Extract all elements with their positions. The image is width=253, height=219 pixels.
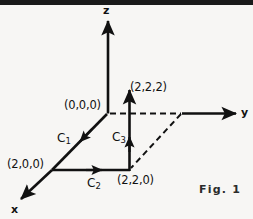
z-axis-label: z: [103, 5, 109, 16]
y-axis-label: y: [241, 107, 248, 118]
x-axis-label: x: [11, 204, 18, 215]
curve-c1-direction-arrow: [80, 129, 92, 142]
curve-c3-label: C3: [112, 131, 126, 145]
figure-caption: Fig. 1: [199, 184, 241, 195]
curve-c2-subscript: 2: [95, 181, 100, 191]
curve-c3-subscript: 3: [120, 135, 125, 145]
point-222-label: (2,2,2): [130, 82, 167, 94]
curve-c2-label: C2: [87, 177, 101, 191]
dashed-guide-y-to-point220: [131, 114, 181, 168]
figure-container: z y x (0,0,0) (2,0,0) (2,2,0) (2,2,2) C1…: [0, 0, 253, 219]
curve-c1-subscript: 1: [65, 136, 70, 146]
point-origin-label: (0,0,0): [64, 100, 101, 112]
x-axis-line: [21, 170, 52, 199]
point-200-label: (2,0,0): [7, 159, 44, 171]
curve-c1-label: C1: [57, 132, 71, 146]
point-220-label: (2,2,0): [117, 175, 154, 187]
